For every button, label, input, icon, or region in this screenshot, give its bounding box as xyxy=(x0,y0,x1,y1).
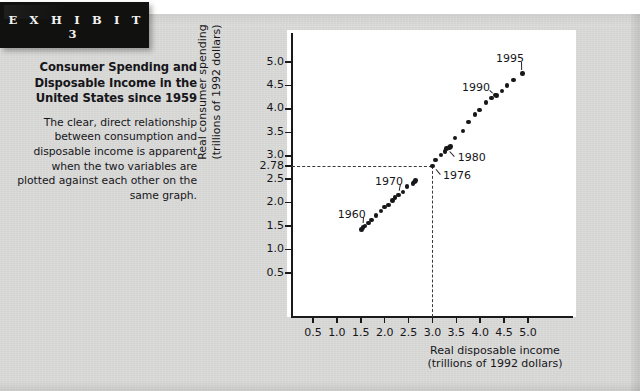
x-axis-title-line2: (trillions of 1992 dollars) xyxy=(390,357,600,370)
exhibit-title: Consumer Spending and Disposable Income … xyxy=(14,60,197,107)
page-right-edge-shadow xyxy=(631,14,640,391)
exhibit-banner-label: E X H I B I T 3 xyxy=(0,13,149,41)
exhibit-page: E X H I B I T 3 Consumer Spending and Di… xyxy=(0,0,640,391)
x-axis-title: Real disposable income (trillions of 199… xyxy=(390,344,600,371)
y-axis-title-line2: (trillions of 1992 dollars) xyxy=(210,2,224,182)
x-axis-title-line1: Real disposable income xyxy=(390,344,600,357)
y-axis-title-line1: Real consumer spending xyxy=(196,2,210,182)
exhibit-banner: E X H I B I T 3 xyxy=(0,2,149,48)
exhibit-description: The clear, direct relationship between c… xyxy=(14,116,197,204)
exhibit-caption: Consumer Spending and Disposable Income … xyxy=(14,60,197,203)
chart-plot-background xyxy=(288,31,575,316)
page-bottom-edge-shadow xyxy=(0,381,640,391)
